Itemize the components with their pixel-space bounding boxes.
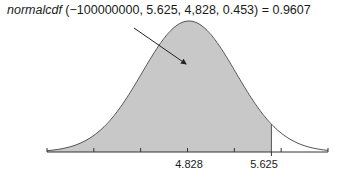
tick-label-mean: 4.828 [175,158,203,170]
normal-curve-plot [0,0,344,182]
tick-label-upper: 5.625 [250,158,278,170]
shaded-area [47,21,271,152]
